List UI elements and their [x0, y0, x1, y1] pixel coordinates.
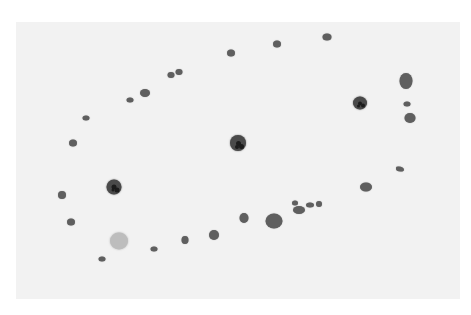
cell-dot	[273, 41, 281, 48]
cell-dot	[400, 73, 413, 89]
cell-dot	[293, 206, 305, 214]
cell-dot	[360, 183, 372, 192]
micrograph-panel	[16, 22, 460, 299]
nucleated-cell	[353, 97, 367, 110]
nucleus	[115, 188, 120, 193]
pale-cell	[110, 233, 128, 250]
cell-dot	[182, 236, 189, 244]
cell-dot	[396, 167, 404, 172]
cell-dot	[99, 257, 106, 262]
cell-dot	[168, 72, 175, 78]
cell-dot	[83, 116, 90, 121]
nucleus	[235, 145, 239, 149]
cell-dot	[405, 113, 416, 123]
cell-dot	[67, 219, 75, 226]
cell-dot	[306, 203, 314, 208]
cell-dot	[127, 98, 134, 103]
cell-dot	[176, 69, 183, 75]
cell-dot	[292, 201, 298, 206]
cell-dot	[240, 213, 249, 223]
cell-dot	[151, 247, 158, 252]
nucleated-cell	[230, 135, 246, 151]
nucleus	[357, 105, 360, 108]
cell-dot	[140, 89, 150, 97]
cell-dot	[323, 34, 332, 41]
nucleated-cell	[107, 180, 122, 195]
cell-dot	[404, 102, 411, 107]
cell-dot	[58, 191, 66, 199]
cell-dot	[69, 140, 77, 147]
cell-dot	[209, 230, 219, 240]
cell-dot	[227, 50, 235, 57]
nucleus	[361, 104, 365, 108]
cell-dot	[316, 201, 322, 207]
cell-dot	[266, 214, 283, 229]
nucleus	[239, 144, 244, 149]
nucleus	[112, 189, 115, 192]
